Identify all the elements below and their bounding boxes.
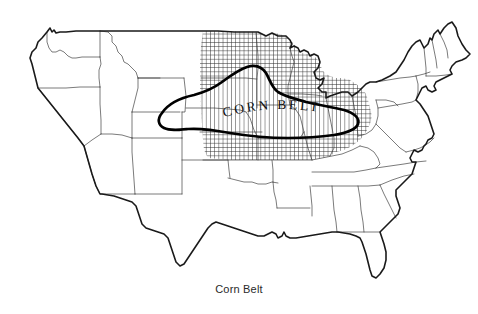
figure-caption: Corn Belt	[0, 283, 478, 295]
corn-belt-figure: CORN BELT Corn Belt	[0, 0, 478, 314]
us-map: CORN BELT	[0, 0, 478, 314]
